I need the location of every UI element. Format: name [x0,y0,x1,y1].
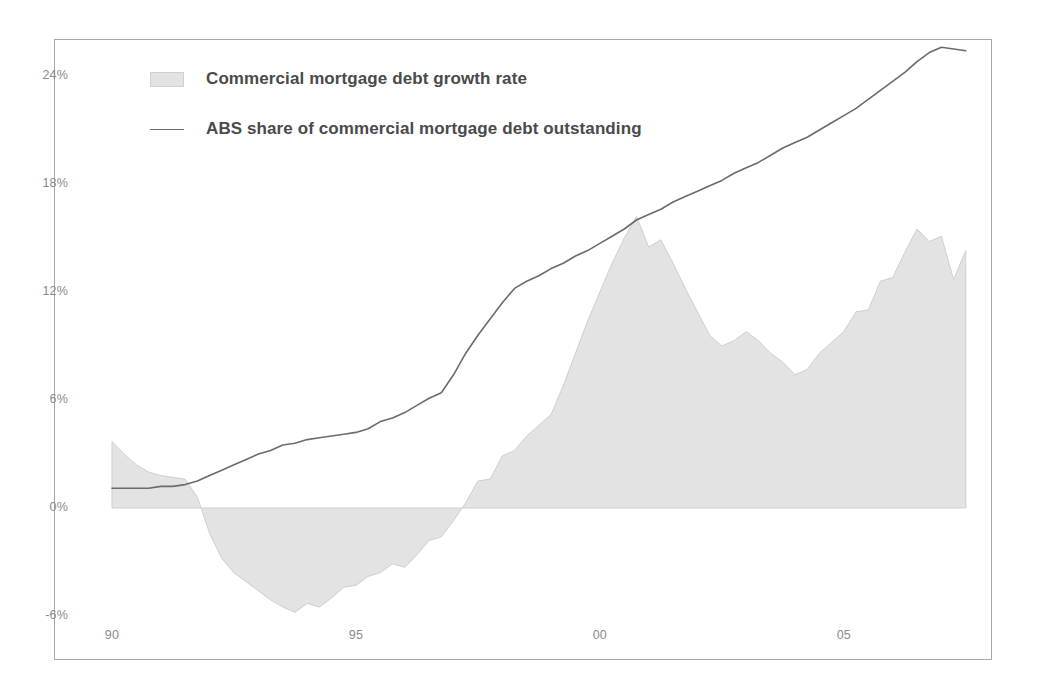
legend-item-line: ABS share of commercial mortgage debt ou… [150,112,642,146]
x-tick-90: 90 [92,628,132,642]
legend-label-area: Commercial mortgage debt growth rate [206,69,527,89]
legend-item-area: Commercial mortgage debt growth rate [150,62,642,96]
y-tick-0: 0% [22,500,68,514]
y-tick-6: 6% [22,392,68,406]
line-swatch-icon [150,122,184,137]
x-tick-95: 95 [336,628,376,642]
legend-label-line: ABS share of commercial mortgage debt ou… [206,119,642,139]
area-swatch-icon [150,72,184,87]
chart-legend: Commercial mortgage debt growth rate ABS… [150,62,642,146]
x-tick-00: 00 [580,628,620,642]
chart-page: 24%18%12%6%0%-6% 90950005 Commercial mor… [0,0,1043,693]
y-tick-12: 12% [22,284,68,298]
y-tick-18: 18% [22,176,68,190]
x-tick-05: 05 [824,628,864,642]
y-tick-24: 24% [22,68,68,82]
y-tick-neg6: -6% [22,608,68,622]
